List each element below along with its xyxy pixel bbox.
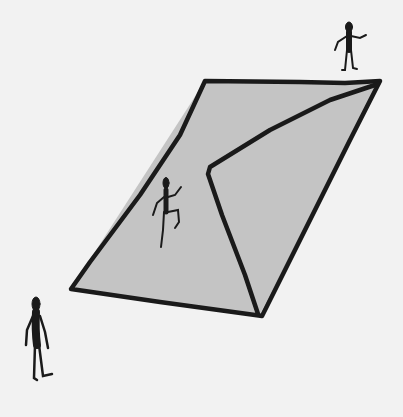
standing-figure-top	[335, 22, 366, 70]
ramp-drawing	[0, 0, 403, 417]
sketch-canvas: Hand-drawn sketch of a gray slanted ramp…	[0, 0, 403, 417]
standing-figure-bottom	[26, 297, 52, 380]
ramp-surface	[71, 81, 380, 316]
